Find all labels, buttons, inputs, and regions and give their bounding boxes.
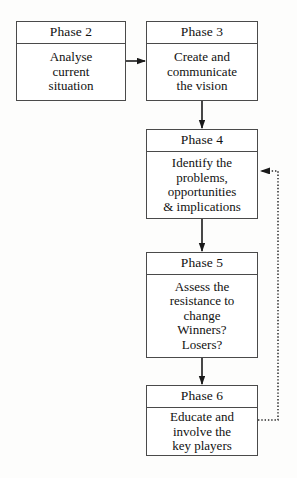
node-phase-5-header: Phase 5 <box>147 253 257 275</box>
node-phase-6-line-1: Educate and <box>170 410 234 425</box>
node-phase-2-header: Phase 2 <box>17 22 125 44</box>
node-phase-4-line-3: opportunities <box>168 185 237 200</box>
node-phase-5[interactable]: Phase 5 Assess the resistance to change … <box>146 252 258 358</box>
node-phase-2-body: Analyse current situation <box>17 44 125 100</box>
node-phase-3-line-2: communicate <box>167 65 237 80</box>
node-phase-2-line-1: Analyse <box>50 50 93 65</box>
node-phase-6-header: Phase 6 <box>147 386 257 408</box>
node-phase-5-line-5: Losers? <box>182 338 222 353</box>
node-phase-5-line-3: change <box>184 309 221 324</box>
node-phase-6-line-3: key players <box>172 439 232 454</box>
node-phase-2[interactable]: Phase 2 Analyse current situation <box>16 21 126 101</box>
connector-phase6-feedback-to-phase4 <box>258 171 278 420</box>
node-phase-3-line-1: Create and <box>174 50 230 65</box>
node-phase-3-header: Phase 3 <box>147 22 257 44</box>
node-phase-5-line-2: resistance to <box>170 294 235 309</box>
node-phase-5-line-4: Winners? <box>177 323 226 338</box>
node-phase-4-body: Identify the problems, opportunities & i… <box>147 152 257 218</box>
node-phase-4-header: Phase 4 <box>147 130 257 152</box>
flowchart-canvas: Phase 2 Analyse current situation Phase … <box>0 0 297 478</box>
node-phase-4-line-4: & implications <box>163 200 241 215</box>
node-phase-2-line-3: situation <box>49 79 94 94</box>
node-phase-6-body: Educate and involve the key players <box>147 408 257 456</box>
node-phase-6-line-2: involve the <box>173 425 231 440</box>
node-phase-4[interactable]: Phase 4 Identify the problems, opportuni… <box>146 129 258 219</box>
node-phase-2-line-2: current <box>53 65 90 80</box>
node-phase-3-body: Create and communicate the vision <box>147 44 257 100</box>
node-phase-4-line-2: problems, <box>176 171 228 186</box>
node-phase-5-line-1: Assess the <box>175 280 230 295</box>
node-phase-3-line-3: the vision <box>177 79 228 94</box>
node-phase-5-body: Assess the resistance to change Winners?… <box>147 275 257 357</box>
node-phase-3[interactable]: Phase 3 Create and communicate the visio… <box>146 21 258 101</box>
node-phase-4-line-1: Identify the <box>172 156 232 171</box>
node-phase-6[interactable]: Phase 6 Educate and involve the key play… <box>146 385 258 456</box>
